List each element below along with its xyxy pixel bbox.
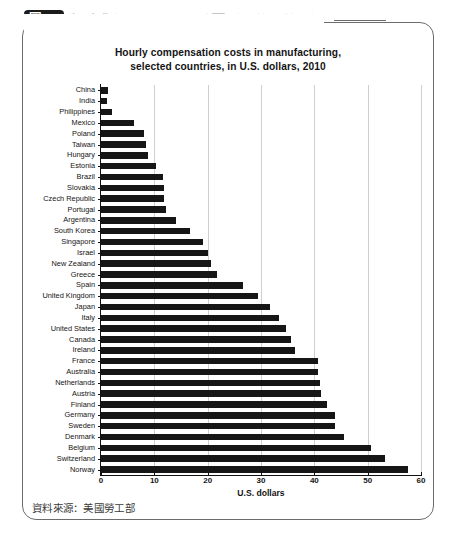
x-axis-title: U.S. dollars [101,488,421,498]
bar-row: France [101,356,421,367]
bar-row: United Kingdom [101,291,421,302]
x-axis-tick-label: 20 [203,476,212,485]
y-axis-label: Mexico [72,119,95,127]
y-axis-label: Norway [70,466,95,474]
x-axis-tick-mark [208,472,209,476]
bar-row: Argentina [101,215,421,226]
bar [101,304,270,311]
chart-title-line-2: selected countries, in U.S. dollars, 201… [22,60,434,74]
y-axis-label: France [72,357,95,365]
bar [101,423,335,430]
bar [101,109,112,116]
bar-row: Poland [101,128,421,139]
y-axis-label: Finland [71,401,95,409]
y-axis-label: United States [51,325,95,333]
y-axis-label: Belgium [68,444,95,452]
y-axis-label: South Korea [54,227,95,235]
y-axis-label: Canada [69,336,95,344]
y-axis-label: India [79,97,95,105]
y-axis-label: Brazil [77,173,95,181]
bar [101,130,144,137]
bar-row: United States [101,323,421,334]
bar-rows: ChinaIndiaPhilippinesMexicoPolandTaiwanH… [101,85,421,475]
bar-row: Austria [101,388,421,399]
frame-caption-gap [24,14,324,32]
x-axis-tick-label: 0 [99,476,103,485]
bar [101,260,211,267]
caption-rule-line [334,20,386,21]
y-axis-label: Singapore [61,238,95,246]
bar [101,325,286,332]
bar-row: Slovakia [101,183,421,194]
source-note: 資料來源：美國勞工部 [32,500,135,515]
y-axis-label: Estonia [70,162,95,170]
bar [101,412,335,419]
bar-row: Sweden [101,421,421,432]
bar [101,455,385,462]
bar-row: Finland [101,399,421,410]
bar-row: India [101,96,421,107]
x-axis-tick-label: 60 [417,476,426,485]
y-axis-label: Sweden [68,422,95,430]
x-axis-tick-mark [368,472,369,476]
y-axis-label: Netherlands [55,379,95,387]
bar-row: Japan [101,302,421,313]
bar [101,434,344,441]
bar [101,271,217,278]
y-axis-label: Poland [72,130,95,138]
bar-row: Greece [101,269,421,280]
x-axis-tick-mark [101,472,102,476]
bar [101,347,295,354]
y-axis-label: China [76,86,95,94]
bar [101,152,148,159]
y-axis-label: New Zealand [51,260,95,268]
y-axis-label: Japan [75,303,95,311]
bar [101,390,321,397]
bar [101,466,408,473]
y-axis-label: Portugal [67,206,95,214]
y-axis-label: United Kingdom [42,292,95,300]
bar [101,250,208,257]
bar-row: Estonia [101,161,421,172]
bar [101,195,164,202]
bar-row: New Zealand [101,258,421,269]
y-axis-label: Spain [76,281,95,289]
x-axis-tick-mark [421,472,422,476]
x-axis-tick-label: 50 [363,476,372,485]
bar [101,358,318,365]
bar [101,120,134,127]
bar-row: Denmark [101,432,421,443]
bar-row: Taiwan [101,139,421,150]
bar-row: Belgium [101,443,421,454]
bar-row: Israel [101,248,421,259]
y-axis-label: Israel [77,249,95,257]
bar [101,293,258,300]
bar-row: Philippines [101,107,421,118]
bar-row: South Korea [101,226,421,237]
bar [101,217,176,224]
x-axis-tick-mark [314,472,315,476]
y-axis-label: Australia [66,368,95,376]
bar-row: Hungary [101,150,421,161]
x-axis-tick-label: 30 [257,476,266,485]
bar [101,141,146,148]
y-axis-label: Italy [81,314,95,322]
bar-row: China [101,85,421,96]
bar [101,282,243,289]
plot-area: ChinaIndiaPhilippinesMexicoPolandTaiwanH… [101,85,421,475]
y-axis-label: Germany [65,411,95,419]
bar [101,87,108,94]
y-axis-label: Austria [72,390,95,398]
bar-row: Netherlands [101,378,421,389]
y-axis-label: Ireland [72,346,95,354]
y-axis-label: Argentina [63,216,95,224]
y-axis-label: Taiwan [72,141,95,149]
y-axis-label: Hungary [67,151,95,159]
bar-row: Czech Republic [101,193,421,204]
bar [101,315,279,322]
bar-row: Singapore [101,237,421,248]
bar [101,185,164,192]
x-axis-tick-label: 10 [150,476,159,485]
bar [101,239,203,246]
chart-title-line-1: Hourly compensation costs in manufacturi… [22,46,434,60]
